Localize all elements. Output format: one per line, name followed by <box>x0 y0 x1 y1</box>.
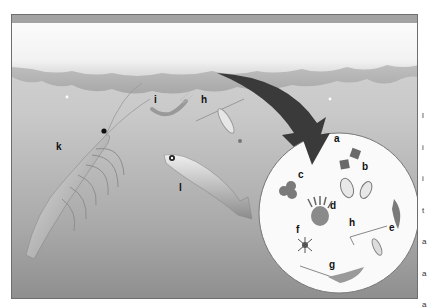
edge-char: l <box>422 111 431 122</box>
organism-h-copepod <box>196 99 244 143</box>
edge-char: i <box>422 143 431 154</box>
edge-char: i <box>422 174 431 185</box>
label-e: e <box>389 223 395 233</box>
diagram-illustration <box>12 15 418 299</box>
label-h-top: h <box>201 95 207 105</box>
edge-char: a <box>422 237 431 248</box>
krill-k <box>26 83 150 259</box>
label-b: b <box>362 162 368 172</box>
label-c: c <box>298 170 304 180</box>
label-i: i <box>154 95 157 105</box>
label-k: k <box>56 142 62 152</box>
label-d: d <box>330 201 336 211</box>
label-l: l <box>179 183 182 193</box>
label-a: a <box>334 134 340 144</box>
sea-ice <box>12 23 418 100</box>
label-h-circle: h <box>349 218 355 228</box>
clipped-side-text: l i i t a a a a ( l s a l <box>422 90 431 308</box>
edge-char: a <box>422 269 431 280</box>
organism-i <box>152 91 193 114</box>
diagram-frame: k i h l a b c d e f h g <box>11 14 418 299</box>
label-g: g <box>329 260 335 270</box>
edge-char: a <box>422 300 431 308</box>
edge-char: t <box>422 206 431 217</box>
label-f: f <box>296 225 299 235</box>
fish-l <box>164 154 252 219</box>
